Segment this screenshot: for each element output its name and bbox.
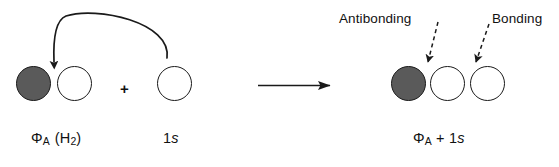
orbital-interaction-figure: + ΦA(H2) 1s ΦA + 1s Antibonding Bonding xyxy=(0,0,559,167)
product-phi-subscript: A xyxy=(425,136,432,147)
arrows-layer xyxy=(0,0,559,167)
phi-subscript-a: A xyxy=(43,136,50,147)
product-one-digit: 1 xyxy=(449,130,457,146)
product-caption: ΦA + 1s xyxy=(413,130,465,147)
antibonding-label: Antibonding xyxy=(339,11,411,26)
bonding-label: Bonding xyxy=(492,11,542,26)
h2-open: (H xyxy=(55,130,71,146)
product-plus: + xyxy=(436,130,445,146)
h2-close: ) xyxy=(76,130,81,146)
antibonding-pointer-arrow xyxy=(428,22,438,62)
phi-symbol: Φ xyxy=(31,130,43,146)
electron-flow-arrow xyxy=(54,13,167,62)
reactant-1s-caption: 1s xyxy=(163,130,179,146)
bonding-pointer-arrow xyxy=(476,24,489,62)
plus-operator: + xyxy=(120,80,129,97)
reactant-phi-a-h2-caption: ΦA(H2) xyxy=(31,130,81,147)
s-letter: s xyxy=(171,130,178,146)
product-phi-symbol: Φ xyxy=(413,130,425,146)
product-s-letter: s xyxy=(457,130,464,146)
